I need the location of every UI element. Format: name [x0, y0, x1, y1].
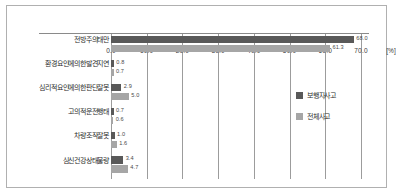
bar-1[interactable]	[111, 45, 330, 53]
category-label: 고의적운전행태	[0, 106, 109, 116]
bar-value-label: 1.6	[119, 140, 127, 146]
bar-value-label: 1.0	[117, 131, 125, 137]
bar-value-label: 2.9	[124, 83, 132, 89]
bar-value-label: 61.3	[332, 44, 343, 50]
chart-legend: 보행자사고 전체사고	[296, 90, 336, 132]
legend-label: 보행자사고	[307, 90, 336, 100]
bar-value-label: 0.7	[116, 107, 124, 113]
bar-row: 심신건강상태불량3.44.7	[111, 155, 361, 179]
bar-0[interactable]	[111, 84, 121, 92]
bar-0[interactable]	[111, 132, 115, 140]
bar-row: 차량조작잘못1.01.6	[111, 130, 361, 154]
bar-row: 환경요인에의한발견지연0.80.7	[111, 58, 361, 82]
bar-1[interactable]	[111, 165, 128, 173]
legend-item-0[interactable]: 보행자사고	[296, 90, 336, 100]
bar-0[interactable]	[111, 156, 123, 164]
bar-value-label: 4.7	[130, 164, 138, 170]
bar-value-label: 68.0	[356, 35, 367, 41]
bar-1[interactable]	[111, 93, 129, 101]
chart-container: 0.010.020.030.040.050.060.070.0[%] 전방주의태…	[6, 5, 387, 188]
legend-item-1[interactable]: 전체사고	[296, 111, 336, 121]
bar-1[interactable]	[111, 141, 117, 149]
gridline	[361, 34, 362, 179]
legend-swatch-icon	[296, 92, 303, 99]
legend-label: 전체사고	[307, 111, 330, 121]
category-label: 전방주의태만	[0, 34, 109, 44]
category-label: 차량조작잘못	[0, 130, 109, 140]
bar-0[interactable]	[111, 36, 354, 44]
bar-value-label: 0.8	[116, 59, 124, 65]
bar-row: 전방주의태만68.061.3	[111, 34, 361, 58]
bar-value-label: 0.6	[116, 116, 124, 122]
bar-0[interactable]	[111, 108, 114, 116]
category-label: 심리적요인에의한판단잘못	[0, 82, 109, 92]
category-label: 환경요인에의한발견지연	[0, 58, 109, 68]
bar-value-label: 0.7	[116, 68, 124, 74]
bar-value-label: 5.0	[131, 92, 139, 98]
legend-swatch-icon	[296, 113, 303, 120]
bar-0[interactable]	[111, 60, 114, 68]
category-label: 심신건강상태불량	[0, 155, 109, 165]
bar-1[interactable]	[111, 69, 114, 77]
bar-1[interactable]	[111, 117, 113, 125]
bar-value-label: 3.4	[126, 155, 134, 161]
x-axis-unit-label: [%]	[386, 47, 395, 54]
